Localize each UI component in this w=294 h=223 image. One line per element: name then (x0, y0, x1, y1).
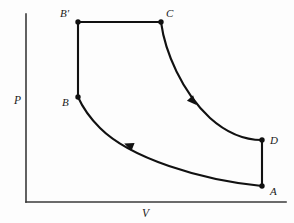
vertex-dot-b (75, 94, 80, 99)
point-label-d: D (269, 134, 278, 146)
point-label-a: A (269, 185, 277, 197)
point-label-c: C (166, 7, 174, 19)
point-labels-group: B' C B D A (60, 7, 278, 197)
vertex-dot-c (158, 19, 163, 24)
point-label-b-prime: B' (60, 7, 70, 19)
y-axis-label: P (13, 94, 21, 106)
cycle-paths-group (78, 22, 262, 186)
arrow-heads-group (123, 95, 200, 151)
point-label-b: B (62, 96, 69, 108)
x-axis-label: V (142, 207, 151, 219)
vertex-dot-d (259, 137, 264, 142)
pv-diagram-figure: B' C B D A P V (0, 0, 294, 223)
axes-group (26, 14, 286, 202)
vertex-dots-group (75, 19, 264, 188)
vertex-dot-a (259, 183, 264, 188)
axis-labels-group: P V (13, 94, 151, 219)
vertex-dot-b-prime (75, 19, 80, 24)
path-c-to-d (161, 22, 262, 140)
path-a-to-b (78, 97, 262, 186)
pv-diagram-canvas: B' C B D A P V (0, 0, 294, 223)
